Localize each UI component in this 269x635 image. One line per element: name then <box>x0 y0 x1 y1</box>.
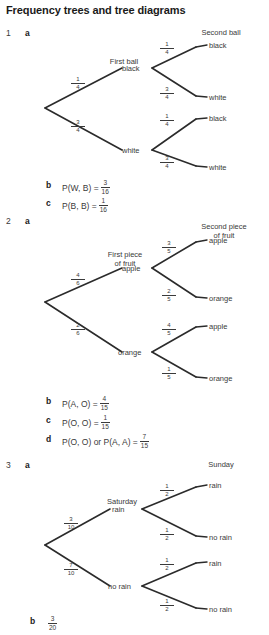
tree-3-prob-branch-1: 3 10 <box>64 516 78 530</box>
question-3-part-b-letter: b <box>30 616 35 626</box>
question-3-answer-b-fraction: 3 20 <box>48 616 57 631</box>
tree-3-leaf-1: rain <box>209 481 222 490</box>
tree-3-stage2-header: Sunday <box>188 460 254 469</box>
tree-3-leaf-4: no rain <box>209 605 232 614</box>
tree-3-prob-leaf-2: 1 2 <box>160 527 174 541</box>
tree-3-leaf-3: rain <box>209 559 222 568</box>
worksheet-page: Frequency trees and tree diagrams 1 a Fi… <box>0 0 269 635</box>
tree-3-prob-leaf-1: 1 2 <box>160 483 174 497</box>
question-3-answer-b: 3 20 <box>46 616 57 631</box>
tree-3-node-no-rain: no rain <box>108 582 131 591</box>
tree-3-node-rain: rain <box>112 505 125 514</box>
tree-3-prob-leaf-3: 1 2 <box>160 557 174 571</box>
tree-3-leaf-2: no rain <box>209 533 232 542</box>
tree-3-prob-branch-2: 7 10 <box>64 562 78 576</box>
tree-3-prob-leaf-4: 1 2 <box>160 598 174 612</box>
